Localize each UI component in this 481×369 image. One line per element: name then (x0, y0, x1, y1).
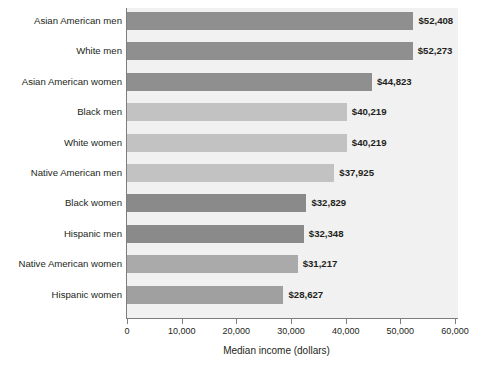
bar-value-label: $28,627 (288, 290, 323, 300)
bar (127, 194, 306, 212)
x-axis-tick-label: 40,000 (316, 326, 376, 336)
x-axis-tick-mark (291, 319, 292, 324)
bar-value-label: $52,408 (418, 16, 453, 26)
x-axis-title: Median income (dollars) (0, 345, 481, 356)
x-axis-tick-label: 60,000 (425, 326, 481, 336)
x-axis-tick-mark (455, 319, 456, 324)
x-axis-tick-mark (236, 319, 237, 324)
x-axis-tick-label: 20,000 (206, 326, 266, 336)
x-axis-title-text: Median income (dollars) (223, 345, 330, 356)
bar-value-label: $32,829 (311, 198, 346, 208)
x-axis-tick-mark (400, 319, 401, 324)
bar (127, 12, 413, 30)
category-label: Native American women (0, 259, 122, 269)
category-label: Black women (0, 198, 122, 208)
x-axis-tick-mark (346, 319, 347, 324)
x-axis-tick-mark (182, 319, 183, 324)
x-axis-tick-label: 0 (97, 326, 157, 336)
bar (127, 164, 334, 182)
bar-value-label: $32,348 (309, 229, 344, 239)
bar (127, 42, 413, 60)
bar (127, 103, 347, 121)
x-axis-line (126, 318, 458, 319)
bar-value-label: $31,217 (303, 259, 338, 269)
bar-value-label: $37,925 (339, 168, 374, 178)
category-label: Hispanic women (0, 290, 122, 300)
bar (127, 225, 304, 243)
x-axis-tick-label: 30,000 (261, 326, 321, 336)
category-label: Asian American women (0, 77, 122, 87)
category-label: White women (0, 138, 122, 148)
bar-value-label: $40,219 (352, 107, 387, 117)
category-label: Asian American men (0, 16, 122, 26)
category-label: Native American men (0, 168, 122, 178)
bar-value-label: $52,273 (418, 46, 453, 56)
category-label: Black men (0, 107, 122, 117)
x-axis-tick-label: 50,000 (370, 326, 430, 336)
category-label: Hispanic men (0, 229, 122, 239)
bar (127, 286, 283, 304)
category-label: White men (0, 46, 122, 56)
x-axis-tick-label: 10,000 (152, 326, 212, 336)
bar-value-label: $44,823 (377, 77, 412, 87)
bar-value-label: $40,219 (352, 138, 387, 148)
bar (127, 134, 347, 152)
bar (127, 73, 372, 91)
bar (127, 255, 298, 273)
median-income-bar-chart: Asian American menWhite menAsian America… (0, 0, 481, 369)
x-axis-tick-mark (127, 319, 128, 324)
